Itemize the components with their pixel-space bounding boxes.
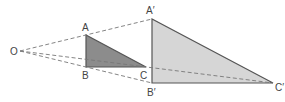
label-a-prime: A′ — [146, 5, 155, 16]
label-c-prime: C′ — [275, 82, 284, 93]
enlargement-diagram: O A B C A′ B′ C′ — [0, 0, 285, 102]
triangle-abc — [86, 35, 146, 67]
label-b: B — [82, 70, 89, 81]
label-c: C — [140, 70, 147, 81]
label-o: O — [10, 46, 18, 57]
triangle-a-prime-b-prime-c-prime — [152, 19, 273, 83]
label-b-prime: B′ — [147, 87, 156, 98]
label-a: A — [82, 22, 89, 33]
